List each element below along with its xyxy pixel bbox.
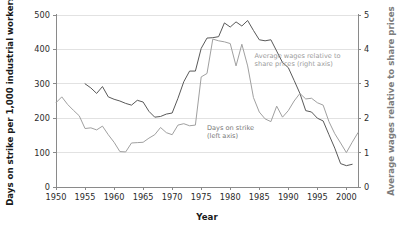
y-axis-right-tick-label: 3 [364, 79, 369, 89]
line-chart: 0100200300400500012345195019551960196519… [0, 0, 403, 235]
x-axis-tick-label: 1980 [220, 192, 241, 202]
x-axis-tick-label: 1965 [133, 192, 154, 202]
y-axis-right-tick-label: 4 [364, 44, 369, 54]
x-axis-tick-label: 1955 [75, 192, 96, 202]
y-axis-left-tick-label: 300 [34, 79, 50, 89]
x-axis-tick-label: 1970 [162, 192, 183, 202]
x-axis-tick-label: 1975 [191, 192, 212, 202]
x-axis-tick-label: 1995 [307, 192, 328, 202]
chart-annotation-line: Days on strike [207, 124, 254, 132]
y-axis-left-tick-label: 200 [34, 113, 50, 123]
y-axis-left-tick-label: 100 [34, 148, 50, 158]
x-axis-tick-label: 1990 [278, 192, 299, 202]
x-axis-tick-label: 1960 [104, 192, 125, 202]
y-axis-left-tick-label: 500 [34, 10, 50, 20]
y-axis-right-tick-label: 1 [364, 148, 369, 158]
y-axis-left-tick-label: 0 [45, 182, 50, 192]
x-axis-tick-label: 2000 [336, 192, 357, 202]
chart-annotation: Average wages relative toshare prices (r… [255, 52, 341, 68]
chart-annotation-line: share prices (right axis) [255, 60, 333, 68]
chart-container: 0100200300400500012345195019551960196519… [0, 0, 403, 235]
chart-annotation: Days on strike(left axis) [207, 124, 254, 140]
x-axis-title: Year [195, 212, 218, 222]
y-axis-right-tick-label: 0 [364, 182, 369, 192]
chart-annotation-line: (left axis) [207, 132, 238, 140]
y-axis-right-tick-label: 5 [364, 10, 369, 20]
y-axis-right-title: Average wages relative to share prices [386, 6, 396, 195]
y-axis-left-title: Days on strike per 1,000 industrial work… [5, 0, 15, 206]
x-axis-tick-label: 1985 [249, 192, 270, 202]
chart-annotation-line: Average wages relative to [255, 52, 341, 60]
x-axis-tick-label: 1950 [46, 192, 67, 202]
y-axis-right-tick-label: 2 [364, 113, 369, 123]
series-line-strike-days [85, 21, 352, 166]
y-axis-left-tick-label: 400 [34, 44, 50, 54]
